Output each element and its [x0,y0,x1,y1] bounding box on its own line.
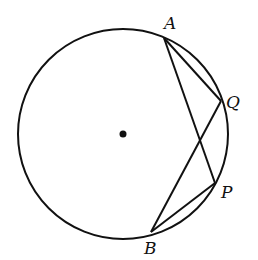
label-q: Q [226,92,240,112]
circle-diagram: A Q P B [0,0,258,260]
label-p: P [220,182,233,202]
chords [151,38,221,232]
segment-pb [151,183,215,232]
label-a: A [162,13,176,33]
label-b: B [143,238,157,258]
segment-aq [164,38,221,101]
center-point [120,131,127,138]
segment-qb [151,101,221,232]
